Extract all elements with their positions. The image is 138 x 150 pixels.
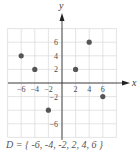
x-axis-label: x xyxy=(131,77,137,88)
data-point xyxy=(100,94,105,99)
tick-labels: −6−4−2246642−2−6 xyxy=(17,38,105,129)
y-axis-arrow-icon xyxy=(60,13,65,21)
y-tick-label: −6 xyxy=(49,120,58,129)
axes: x y xyxy=(8,0,137,140)
scatter-plot: x y −6−4−2246642−2−6 xyxy=(0,0,138,150)
x-tick-label: 4 xyxy=(87,85,91,94)
y-tick-label: 6 xyxy=(54,38,58,47)
x-tick-label: −6 xyxy=(17,85,26,94)
y-tick-label: −2 xyxy=(49,93,58,102)
data-point xyxy=(19,53,24,58)
y-tick-label: 2 xyxy=(54,65,58,74)
data-point xyxy=(87,40,92,45)
x-axis-arrow-icon xyxy=(122,81,130,86)
x-tick-label: 6 xyxy=(101,85,105,94)
x-tick-label: 2 xyxy=(74,85,78,94)
data-point xyxy=(32,67,37,72)
data-point xyxy=(46,108,51,113)
data-point xyxy=(73,67,78,72)
y-tick-label: 4 xyxy=(54,52,58,61)
y-axis-label: y xyxy=(58,0,64,11)
domain-caption: D = { -6, -4, -2, 2, 4, 6 } xyxy=(6,139,103,150)
x-tick-label: −4 xyxy=(31,85,40,94)
